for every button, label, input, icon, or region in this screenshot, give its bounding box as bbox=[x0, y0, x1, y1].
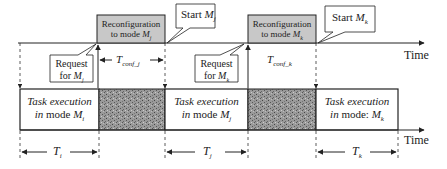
top-axis-label: Time bbox=[404, 49, 429, 61]
reconfig-k-text: Reconfiguration to mode Mk bbox=[248, 19, 316, 42]
task-j-text: Task execution in mode Mj bbox=[165, 95, 248, 123]
start-k-text: Start Mk bbox=[332, 12, 368, 26]
bottom-axis-label: Time bbox=[404, 134, 429, 146]
timing-diagram-canvas bbox=[0, 0, 447, 169]
request-j-text: Request for Mj bbox=[50, 58, 93, 83]
task-k-text: Task execution in mode: Mk bbox=[316, 95, 398, 123]
duration-j-label: Tj bbox=[203, 145, 212, 160]
request-k-text: Request for Mk bbox=[195, 58, 238, 83]
duration-k-label: Tk bbox=[352, 145, 362, 160]
tconf-j-label: Tconf_j bbox=[116, 54, 140, 68]
tconf-k-label: Tconf_k bbox=[267, 54, 292, 68]
duration-i-label: Ti bbox=[53, 145, 62, 160]
task-i-text: Task execution in mode Mi bbox=[20, 95, 99, 123]
reconfig-j-text: Reconfiguration to mode Mj bbox=[97, 19, 165, 42]
start-j-text: Start Mj bbox=[181, 9, 216, 23]
